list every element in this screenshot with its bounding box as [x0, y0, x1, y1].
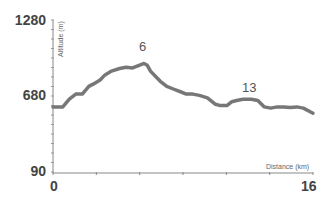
peak-label-6: 6 — [139, 39, 146, 54]
x-tick-16: 16 — [301, 178, 317, 194]
y-tick-680: 680 — [2, 87, 46, 103]
elevation-profile-line — [53, 63, 313, 113]
x-axis-title: Distance (km) — [266, 163, 309, 170]
axes — [51, 20, 313, 175]
elevation-chart — [0, 0, 332, 205]
y-axis-title: Altitude (m) — [57, 21, 64, 57]
y-tick-90: 90 — [2, 163, 46, 179]
y-tick-1280: 1280 — [2, 12, 46, 28]
x-tick-0: 0 — [50, 178, 58, 194]
peak-label-13: 13 — [242, 80, 256, 95]
